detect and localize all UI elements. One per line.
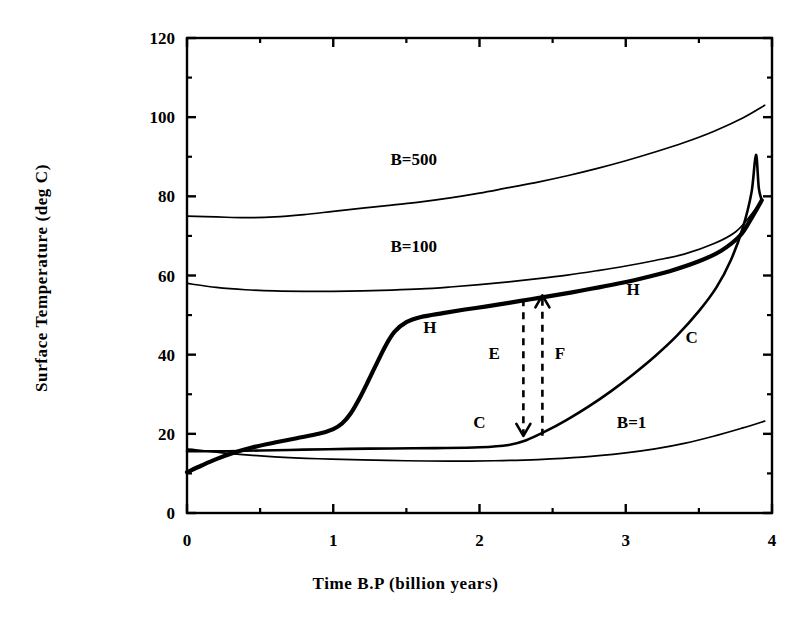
x-tick-label: 2 <box>475 531 484 550</box>
curve-label: C <box>685 328 697 347</box>
chart-canvas: 02040608010012001234 B=500B=100B=1HHCCEF <box>0 0 811 624</box>
figure: Surface Temperature (deg C) Time B.P (bi… <box>0 0 811 624</box>
x-tick-label: 3 <box>622 531 631 550</box>
curve-label: B=500 <box>390 150 437 169</box>
curve-label: B=100 <box>390 237 437 256</box>
annotation-label: F <box>555 344 565 363</box>
curve-b-500 <box>187 105 765 217</box>
y-tick-label: 120 <box>150 29 176 48</box>
curve-label: B=1 <box>617 413 647 432</box>
y-tick-label: 20 <box>158 425 175 444</box>
x-tick-label: 1 <box>329 531 338 550</box>
curve-label: C <box>473 413 485 432</box>
transition-arrows <box>516 295 549 436</box>
y-tick-label: 80 <box>158 187 175 206</box>
annotation-label: E <box>488 344 499 363</box>
y-tick-label: 40 <box>158 346 175 365</box>
curve-b-100 <box>187 200 762 291</box>
y-tick-label: 0 <box>167 504 176 523</box>
x-tick-label: 0 <box>183 531 192 550</box>
curve-label: H <box>423 318 436 337</box>
curve-label: H <box>626 280 639 299</box>
curve-labels: B=500B=100B=1HHCCEF <box>390 150 697 432</box>
curve-c-branch <box>187 155 762 452</box>
y-tick-label: 100 <box>150 108 176 127</box>
x-tick-label: 4 <box>768 531 777 550</box>
y-tick-label: 60 <box>158 267 175 286</box>
